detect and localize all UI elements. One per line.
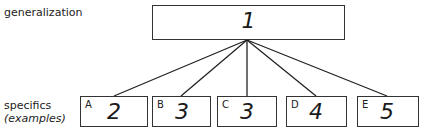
leaf-value: 3 (240, 99, 254, 124)
leaf-box-a: A 2 (80, 96, 148, 127)
leaf-box-b: B 3 (152, 96, 211, 127)
connector-b (181, 40, 247, 96)
leaf-box-d: D 4 (286, 96, 347, 127)
generalization-box: 1 (152, 5, 345, 40)
leaf-value: 5 (380, 99, 394, 124)
leaf-letter: D (291, 99, 299, 110)
root-value: 1 (242, 8, 256, 33)
leaf-box-e: E 5 (357, 96, 419, 127)
leaf-value: 4 (309, 99, 323, 124)
leaf-letter: A (85, 99, 92, 110)
leaf-value: 3 (175, 99, 189, 124)
leaf-box-c: C 3 (217, 96, 277, 127)
leaf-letter: E (362, 99, 368, 110)
leaf-letter: B (157, 99, 164, 110)
connector-e (247, 40, 387, 96)
connector-d (247, 40, 316, 96)
leaf-value: 2 (107, 99, 121, 124)
leaf-letter: C (222, 99, 229, 110)
connector-a (114, 40, 247, 96)
